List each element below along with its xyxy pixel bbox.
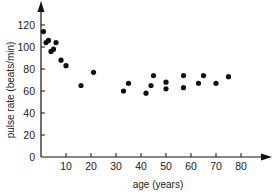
data-point <box>196 81 201 86</box>
data-point <box>163 86 168 91</box>
x-tick-label: 30 <box>110 160 122 172</box>
data-point <box>51 47 56 52</box>
x-tick-label: 80 <box>235 160 247 172</box>
x-tick-label: 60 <box>185 160 197 172</box>
data-point <box>91 70 96 75</box>
x-tick-label: 10 <box>60 160 72 172</box>
y-tick-label: 80 <box>23 63 35 75</box>
data-points <box>41 29 231 96</box>
y-tick-label: 100 <box>17 41 35 53</box>
y-tick-label: 0 <box>29 151 35 163</box>
data-point <box>181 73 186 78</box>
scatter-chart: 1020304050607080020406080100120 age (yea… <box>0 0 273 195</box>
x-axis-title: age (years) <box>133 179 184 190</box>
data-point <box>63 63 68 68</box>
data-point <box>181 85 186 90</box>
data-point <box>78 83 83 88</box>
data-point <box>163 80 168 85</box>
y-tick-label: 40 <box>23 107 35 119</box>
axes: 1020304050607080020406080100120 <box>17 1 272 172</box>
y-tick-label: 120 <box>17 19 35 31</box>
y-tick-label: 20 <box>23 129 35 141</box>
data-point <box>226 74 231 79</box>
data-point <box>53 40 58 45</box>
data-point <box>151 73 156 78</box>
data-point <box>46 38 51 43</box>
data-point <box>148 83 153 88</box>
x-tick-label: 50 <box>160 160 172 172</box>
y-tick-label: 60 <box>23 85 35 97</box>
x-tick-label: 70 <box>210 160 222 172</box>
data-point <box>58 58 63 63</box>
y-axis-title: pulse rate (beats/min) <box>5 42 16 139</box>
x-tick-label: 40 <box>135 160 147 172</box>
x-axis-arrow-icon <box>261 154 272 161</box>
data-point <box>143 91 148 96</box>
data-point <box>121 88 126 93</box>
x-tick-label: 20 <box>85 160 97 172</box>
data-point <box>213 81 218 86</box>
data-point <box>41 29 46 34</box>
y-axis-arrow-icon <box>38 1 45 12</box>
data-point <box>201 73 206 78</box>
data-point <box>126 81 131 86</box>
